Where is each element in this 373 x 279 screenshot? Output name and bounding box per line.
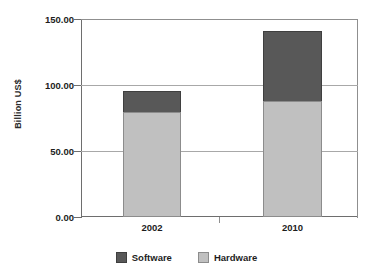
bar-group-2002[interactable] [123,19,181,217]
plot-right-border [357,19,358,218]
bar-segment-software-2010[interactable] [263,31,322,102]
bar-segment-hardware-2002[interactable] [123,112,181,217]
y-tick-label-100: 100.00 [28,81,74,91]
bar-group-2010[interactable] [263,19,322,217]
legend-swatch-software-icon [116,252,127,263]
bar-segment-hardware-2010[interactable] [263,101,322,217]
y-tickmark-0 [74,217,82,218]
bar-segment-software-2002[interactable] [123,91,181,114]
x-tickmark-mid [219,217,220,223]
x-axis-label-2002: 2002 [123,222,181,233]
y-tick-label-0: 0.00 [28,213,74,223]
stacked-bar-chart: Billion US$ 150.00 100.00 50.00 0.00 200… [0,0,373,279]
legend-swatch-hardware-icon [198,252,209,263]
legend-item-software[interactable]: Software [116,252,172,263]
y-tick-label-50: 50.00 [28,147,74,157]
legend-item-hardware[interactable]: Hardware [198,252,257,263]
legend-label-hardware: Hardware [214,252,257,263]
y-tick-label-150: 150.00 [28,15,74,25]
chart-legend: Software Hardware [0,252,373,263]
x-axis-label-2010: 2010 [263,222,322,233]
legend-label-software: Software [132,252,172,263]
y-axis-title: Billion US$ [10,64,26,144]
